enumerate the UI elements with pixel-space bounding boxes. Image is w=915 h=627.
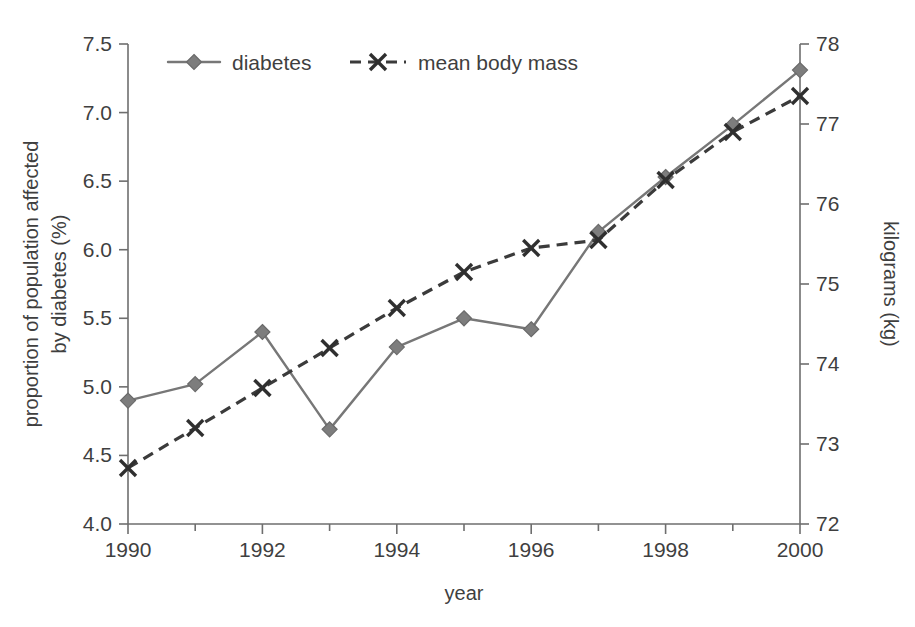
y-axis-title-line-1: proportion of population affected xyxy=(20,141,42,428)
left-axis-tick-label: 4.5 xyxy=(83,443,112,466)
line-chart-canvas: 4.04.55.05.56.06.57.07.57273747576777819… xyxy=(0,0,915,627)
axis-labels-group: yearproportion of population affectedby … xyxy=(20,141,902,604)
x-axis-tick-label: 1992 xyxy=(239,538,286,561)
x-axis-tick-label: 1994 xyxy=(373,538,420,561)
left-axis-tick-label: 5.0 xyxy=(83,375,112,398)
right-axis-tick-label: 72 xyxy=(816,512,839,535)
legend-label-mean-body-mass: mean body mass xyxy=(418,51,578,74)
left-axis-tick-label: 7.0 xyxy=(83,101,112,124)
chart-figure: 4.04.55.05.56.06.57.07.57273747576777819… xyxy=(0,0,915,627)
left-axis-tick-label: 6.5 xyxy=(83,169,112,192)
x-axis-tick-label: 1998 xyxy=(642,538,689,561)
legend-label-diabetes: diabetes xyxy=(232,51,311,74)
diamond-marker xyxy=(121,393,136,408)
x-axis-tick-label: 1996 xyxy=(508,538,555,561)
x-axis-tick-label: 1990 xyxy=(105,538,152,561)
left-axis-tick-label: 6.0 xyxy=(83,238,112,261)
right-axis-tick-label: 75 xyxy=(816,272,839,295)
diamond-marker xyxy=(524,322,539,337)
right-axis-tick-label: 77 xyxy=(816,112,839,135)
x-axis-title: year xyxy=(445,582,484,604)
series-group xyxy=(120,63,808,476)
diamond-marker xyxy=(457,311,472,326)
right-axis-tick-label: 76 xyxy=(816,192,839,215)
right-axis-tick-label: 74 xyxy=(816,352,840,375)
left-axis-tick-label: 7.5 xyxy=(83,32,112,55)
right-axis-tick-label: 73 xyxy=(816,432,839,455)
left-axis-tick-label: 4.0 xyxy=(83,512,112,535)
left-axis-tick-label: 5.5 xyxy=(83,306,112,329)
legend-group: diabetesmean body mass xyxy=(168,51,578,74)
right-axis-tick-label: 78 xyxy=(816,32,839,55)
legend-diamond-marker xyxy=(187,55,202,70)
axes-group: 4.04.55.05.56.06.57.07.57273747576777819… xyxy=(83,32,840,561)
y2-axis-title: kilograms (kg) xyxy=(880,221,902,347)
series-line-diabetes xyxy=(128,70,800,429)
x-axis-tick-label: 2000 xyxy=(777,538,824,561)
y-axis-title-line-2: by diabetes (%) xyxy=(48,215,70,354)
